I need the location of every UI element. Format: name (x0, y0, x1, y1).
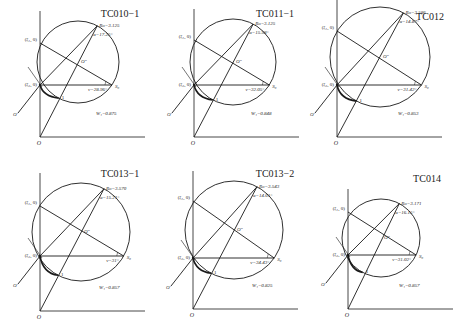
panel-tc012: TC012Ro=3.586α=14.87°v=31.42°S₀W₁=0.853(… (310, 0, 444, 146)
s0-label: S₀ (115, 84, 120, 89)
panel-title: TC011−1 (256, 8, 294, 19)
angle-mark (414, 81, 415, 85)
ro-label: Ro=3.570 (105, 186, 127, 191)
origin-label: O (191, 140, 196, 146)
chord-to-ro (348, 204, 399, 255)
o-prime-line (315, 85, 337, 113)
o-prime-line (171, 258, 193, 286)
origin-to-ro-line (40, 189, 104, 311)
panel-title: TC010−1 (101, 8, 139, 19)
xi2-label: (ξ₂, 0) (178, 255, 191, 261)
chord-to-ro (194, 24, 253, 85)
alpha-label: α=17.25° (93, 32, 112, 37)
panel-tc014: TC014Ro=3.171α=16.15°v=31.02°S₀W₁=0.857(… (321, 173, 453, 318)
v-label: v=32.05° (245, 87, 264, 92)
xi2-label: (ξ₂, 0) (333, 252, 346, 258)
ro-label: Ro=3.125 (254, 21, 276, 26)
highlighted-arc (194, 85, 213, 100)
angle-mark (409, 251, 410, 255)
point-1-label: 1 (62, 95, 65, 100)
panel-title: TC013−2 (256, 168, 294, 179)
v-label: v=34.43° (250, 260, 269, 265)
panel-tc011-1: TC011−1Ro=3.125α=15.98°v=32.05°S₀W₁=0.84… (167, 8, 299, 146)
o-double-prime-label: O″ (81, 59, 88, 64)
xi2-label: (ξ₂, 0) (322, 82, 335, 88)
ro-label: Ro=3.171 (400, 201, 421, 206)
wt-label: W₁=0.875 (96, 111, 117, 116)
diagonal-chord (348, 212, 416, 255)
highlighted-arc (348, 255, 363, 272)
origin-to-ro-line (337, 13, 403, 137)
origin-to-ro-line (194, 24, 253, 137)
point-1-label: 1 (216, 97, 219, 102)
xi2-label: (ξ₂, 0) (25, 82, 38, 88)
alpha-label: α=15.21° (100, 195, 119, 200)
xi2-point (193, 84, 195, 86)
v-label: v=31.42° (398, 87, 417, 92)
ro-label: Ro=3.125 (98, 23, 120, 28)
o-prime-line (172, 85, 194, 113)
diagonal-chord (193, 201, 274, 258)
xi2-point (39, 84, 41, 86)
o-prime-line (326, 255, 348, 283)
wt-label: W₁=0.857 (399, 283, 420, 288)
xi2-point (336, 84, 338, 86)
highlighted-arc (40, 256, 58, 275)
xi1-label: (ξ₁, 0) (178, 195, 191, 201)
panel-tc013-2: TC013−2Ro=3.543α=14.01°v=34.43°S₀W₁=0.82… (166, 168, 298, 318)
o-double-prime-label: O″ (84, 229, 91, 234)
xi1-label: (ξ₁, 0) (25, 200, 38, 206)
o-prime-line (18, 256, 40, 284)
o-double-prime-label: O″ (384, 235, 391, 240)
xi2-point (192, 257, 194, 259)
xi1-label: (ξ₁, 0) (25, 37, 38, 43)
s0-label: S₀ (272, 84, 277, 89)
point-1-label: 1 (360, 98, 363, 103)
diagonal-chord (40, 43, 112, 85)
origin-label: O (37, 314, 42, 320)
panel-title: TC014 (413, 173, 441, 184)
xi2-point (39, 255, 41, 257)
o-prime-line (18, 85, 40, 113)
alpha-label: α=15.98° (249, 30, 268, 35)
origin-to-ro-line (40, 26, 97, 137)
panel-tc013-1: TC013−1Ro=3.570α=15.21°v=31°S₀W₁=0.857(ξ… (13, 168, 145, 320)
angle-mark (267, 254, 268, 258)
xi2-label: (ξ₂, 0) (179, 82, 192, 88)
point-1-label: 1 (214, 270, 217, 275)
xi2-point (347, 254, 349, 256)
o-double-prime-label: O″ (237, 227, 244, 232)
origin-label: O (190, 312, 195, 318)
ro-label: Ro=3.543 (258, 184, 280, 189)
chord-to-ro (40, 26, 97, 85)
o-double-prime-label: O″ (236, 59, 243, 64)
xi1-label: (ξ₁, 0) (179, 34, 192, 40)
alpha-label: α=14.87° (399, 19, 418, 24)
origin-label: O (334, 140, 339, 146)
wt-label: W₁=0.848 (251, 111, 272, 116)
xi2-label: (ξ₂, 0) (25, 253, 38, 259)
s0-label: S₀ (127, 255, 132, 260)
wt-label: W₁=0.857 (99, 285, 120, 290)
chord-to-ro (40, 189, 104, 256)
xi1-label: (ξ₁, 0) (333, 206, 346, 212)
v-label: v=31.02° (392, 257, 411, 262)
s0-label: S₀ (419, 254, 424, 259)
xi1-label: (ξ₁, 0) (322, 25, 335, 31)
s0-label: S₀ (424, 84, 429, 89)
wt-label: W₁=0.853 (398, 111, 419, 116)
v-label: v=31° (106, 258, 119, 263)
v-label: v=28.96° (88, 87, 107, 92)
panel-tc010-1: TC010−1Ro=3.125α=17.25°v=28.96°S₀W₁=0.87… (13, 8, 145, 146)
diagram-canvas: TC010−1Ro=3.125α=17.25°v=28.96°S₀W₁=0.87… (0, 0, 459, 330)
alpha-label: α=14.01° (253, 193, 272, 198)
origin-label: O (345, 312, 350, 318)
point-1-label: 1 (61, 272, 64, 277)
wt-label: W₁=0.825 (252, 283, 273, 288)
point-1-label: 1 (366, 269, 369, 274)
ro-label: Ro=3.586 (404, 10, 426, 15)
o-double-prime-label: O″ (383, 54, 390, 59)
panel-title: TC013−1 (101, 168, 139, 179)
origin-label: O (37, 140, 42, 146)
s0-label: S₀ (277, 257, 282, 262)
